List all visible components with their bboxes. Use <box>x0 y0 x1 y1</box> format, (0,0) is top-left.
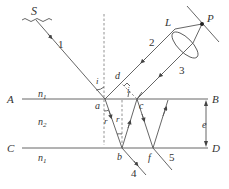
label-P: P <box>206 12 214 24</box>
ray-2 <box>105 29 175 99</box>
f-up-arrow-icon <box>163 108 166 116</box>
thickness-arrow-bottom-icon <box>204 141 208 147</box>
label-D: D <box>211 142 220 154</box>
ray-3-arrow-icon <box>160 73 163 76</box>
angle-r-arc <box>104 110 109 111</box>
thickness-arrow-top-icon <box>204 100 208 106</box>
ray-3 <box>137 43 193 99</box>
label-ray-1: 1 <box>58 38 64 50</box>
label-angle-r2: r <box>116 114 120 124</box>
diagram-canvas: S L P A B C D n1 n2 n1 a b c d f i i r r… <box>0 0 229 189</box>
label-b: b <box>117 151 122 162</box>
label-ray-4: 4 <box>131 167 137 179</box>
label-B: B <box>212 93 219 105</box>
label-f: f <box>148 152 152 163</box>
label-angle-i2: i <box>127 85 130 95</box>
label-A: A <box>6 93 14 105</box>
label-n1-bottom: n1 <box>38 152 47 165</box>
label-ray-2: 2 <box>149 36 155 48</box>
angle-i-arc <box>96 87 104 90</box>
ray-4-arrow-icon <box>134 161 137 165</box>
label-e: e <box>202 119 207 130</box>
label-d: d <box>115 70 121 81</box>
label-S: S <box>31 4 37 18</box>
refracted-arrow-icon <box>109 111 111 117</box>
label-angle-r: r <box>104 116 108 126</box>
label-n2: n2 <box>38 116 47 129</box>
ray-f-up <box>153 100 168 148</box>
point-p-icon <box>200 22 204 26</box>
label-C: C <box>7 142 15 154</box>
ray-2-arrow-icon <box>142 58 146 62</box>
label-ray-3: 3 <box>179 64 185 76</box>
label-ray-5: 5 <box>169 151 175 163</box>
ray-1-arrow-icon <box>48 34 51 38</box>
label-angle-i: i <box>96 76 99 86</box>
ray-1 <box>36 20 105 99</box>
ray-2-to-p <box>175 24 202 29</box>
cf-arrow-icon <box>142 114 144 120</box>
lens-icon <box>168 28 202 62</box>
label-a: a <box>95 100 100 111</box>
thin-film-diagram: S L P A B C D n1 n2 n1 a b c d f i i r r… <box>0 0 229 189</box>
bc-arrow-icon <box>128 122 130 128</box>
label-L: L <box>164 16 171 28</box>
ray-c-stub <box>137 92 142 99</box>
label-c: c <box>139 100 144 111</box>
ray-3-to-p <box>193 24 202 43</box>
